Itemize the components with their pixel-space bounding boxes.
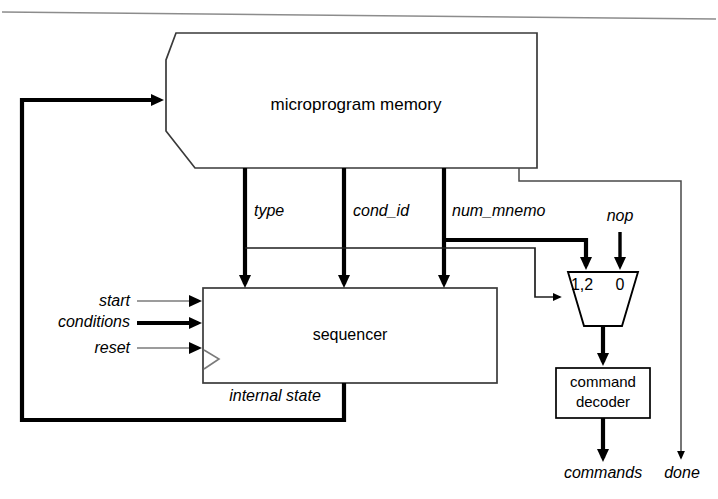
signal-label-cond-id: cond_id [353,203,409,219]
diagram-svg [0,0,718,499]
signal-label-nop: nop [592,208,648,224]
signal-label-num-mnemo: num_mnemo [452,203,545,219]
signal-line-num-mnemo [444,168,586,284]
sequencer-block-label: sequencer [290,327,410,343]
signal-label-commands: commands [543,465,663,481]
diagram-canvas: microprogram memory sequencer 1,2 0 comm… [0,0,718,499]
signal-label-internal-state: internal state [210,388,340,404]
decoder-label-line1: command [556,374,650,389]
signal-label-start: start [30,293,130,309]
signal-label-reset: reset [30,340,130,356]
signal-label-done: done [655,465,709,481]
mux-input-label-data: 1,2 [565,277,599,293]
memory-block-label: microprogram memory [256,96,456,113]
mux-input-label-zero: 0 [606,277,634,293]
signal-label-type: type [254,203,284,219]
signal-label-conditions: conditions [10,314,130,330]
page-rule-top [2,12,716,19]
decoder-label-line2: decoder [556,394,650,409]
